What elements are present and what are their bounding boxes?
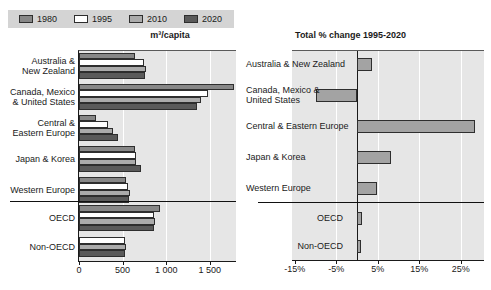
left-axis-tick-label: 500 xyxy=(103,265,143,275)
right-axis-tick-label: -5% xyxy=(316,264,356,274)
legend-swatch-2010 xyxy=(129,15,143,23)
change-bar xyxy=(357,240,361,253)
left-plot-area xyxy=(78,50,236,262)
legend-label: 2010 xyxy=(147,14,167,24)
right-axis-tick-label: 15% xyxy=(399,264,439,274)
gridline xyxy=(336,51,337,260)
left-category-label: Central & Eastern Europe xyxy=(3,118,75,138)
right-category-label: Non-OECD xyxy=(246,241,343,251)
left-chart-title: m³/capita xyxy=(100,30,240,40)
bar-2020 xyxy=(79,103,197,110)
right-category-label: Western Europe xyxy=(246,183,311,193)
legend-label: 2020 xyxy=(202,14,222,24)
right-category-label: Central & Eastern Europe xyxy=(246,121,349,131)
legend-label: 1995 xyxy=(92,14,112,24)
bar-2020 xyxy=(79,225,154,232)
change-bar xyxy=(357,212,362,225)
bar-2020 xyxy=(79,72,145,79)
legend-swatch-2020 xyxy=(184,15,198,23)
change-bar xyxy=(357,182,377,195)
left-category-label: OECD xyxy=(3,213,75,223)
legend-item-1995: 1995 xyxy=(74,14,112,24)
left-separator-line xyxy=(10,201,236,202)
left-category-label: Western Europe xyxy=(3,185,75,195)
left-axis-tick-label: 1 500 xyxy=(190,265,230,275)
bar-2020 xyxy=(79,250,125,257)
right-axis-tick-label: 5% xyxy=(358,264,398,274)
left-category-label: Japan & Korea xyxy=(3,154,75,164)
legend: 1980199520102020 xyxy=(8,10,234,28)
right-category-label: Australia & New Zealand xyxy=(246,59,345,69)
legend-item-2020: 2020 xyxy=(184,14,222,24)
gridline xyxy=(210,51,211,261)
right-plot-area xyxy=(292,50,484,261)
left-axis-tick-label: 0 xyxy=(59,265,99,275)
legend-label: 1980 xyxy=(37,14,57,24)
right-category-label: OECD xyxy=(246,213,343,223)
bar-2020 xyxy=(79,134,118,141)
gridline xyxy=(419,51,420,260)
right-chart-title: Total % change 1995-2020 xyxy=(253,30,448,40)
gridline xyxy=(461,51,462,260)
change-bar xyxy=(357,58,372,71)
bar-2020 xyxy=(79,165,141,172)
right-category-label: Japan & Korea xyxy=(246,152,306,162)
right-axis-tick-label: 25% xyxy=(441,264,481,274)
gridline xyxy=(166,51,167,261)
legend-swatch-1980 xyxy=(19,15,33,23)
left-axis-tick-label: 1 000 xyxy=(146,265,186,275)
left-category-label: Canada, Mexico & United States xyxy=(3,87,75,107)
left-category-label: Australia & New Zealand xyxy=(3,56,75,76)
left-category-label: Non-OECD xyxy=(3,242,75,252)
figure-canvas: { "legend": { "items": [ {"label": "1980… xyxy=(0,0,491,290)
change-bar xyxy=(357,120,475,133)
right-category-label: Canada, Mexico & United States xyxy=(246,85,320,105)
legend-swatch-1995 xyxy=(74,15,88,23)
legend-item-1980: 1980 xyxy=(19,14,57,24)
change-bar xyxy=(357,151,391,164)
legend-item-2010: 2010 xyxy=(129,14,167,24)
right-separator-line xyxy=(258,202,484,203)
change-bar xyxy=(316,89,358,102)
right-axis-tick-label: -15% xyxy=(275,264,315,274)
